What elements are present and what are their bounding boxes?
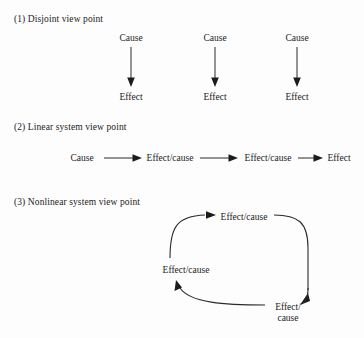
cycle-node-bottom-right-line1: Effect/	[275, 302, 301, 312]
linear-node-4: Effect	[327, 153, 350, 163]
connector-layer	[0, 0, 364, 338]
section-heading-nonlinear: (3) Nonlinear system view point	[14, 197, 140, 207]
disjoint-arrow-1	[127, 47, 135, 87]
linear-node-2: Effect/cause	[147, 153, 194, 163]
linear-arrow-1	[104, 154, 142, 162]
cycle-arrow-bottom-right-to-left	[175, 280, 266, 305]
cycle-node-left: Effect/cause	[163, 265, 210, 275]
linear-arrow-3	[298, 154, 323, 162]
disjoint-arrow-3	[293, 47, 301, 87]
causality-viewpoints-diagram: (1) Disjoint view point Cause Effect Cau…	[0, 0, 364, 338]
cycle-arrow-top-to-bottom-right	[274, 215, 310, 305]
linear-arrow-2	[200, 154, 238, 162]
disjoint-effect-2: Effect	[203, 92, 226, 102]
cycle-node-bottom-right-line2: cause	[277, 313, 298, 323]
disjoint-effect-1: Effect	[119, 92, 142, 102]
linear-node-1: Cause	[70, 153, 93, 163]
section-heading-linear: (2) Linear system view point	[14, 122, 127, 132]
cycle-arrow-left-to-top	[170, 211, 216, 258]
cycle-node-top: Effect/cause	[221, 212, 268, 222]
disjoint-cause-1: Cause	[119, 33, 142, 43]
section-heading-disjoint: (1) Disjoint view point	[14, 14, 103, 24]
cycle-node-bottom-right: Effect/ cause	[266, 302, 310, 324]
disjoint-cause-3: Cause	[285, 33, 308, 43]
disjoint-effect-3: Effect	[285, 92, 308, 102]
linear-node-3: Effect/cause	[245, 153, 292, 163]
disjoint-cause-2: Cause	[203, 33, 226, 43]
disjoint-arrow-2	[211, 47, 219, 87]
